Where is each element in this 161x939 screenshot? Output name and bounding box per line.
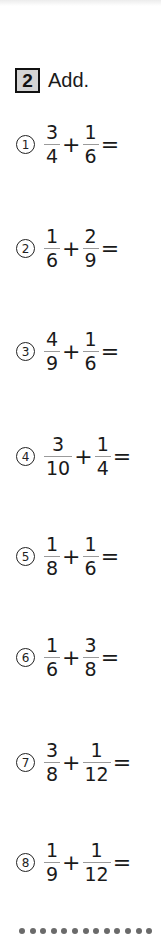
problem-7: 738+112= [16, 740, 133, 785]
numerator: 1 [83, 122, 99, 143]
scan-edge-shadow [0, 0, 161, 6]
denominator: 6 [44, 659, 60, 680]
equals-sign: = [101, 238, 119, 260]
denominator: 9 [44, 864, 60, 885]
denominator: 8 [83, 659, 99, 680]
denominator: 6 [44, 250, 60, 271]
equals-sign: = [113, 852, 131, 874]
denominator: 4 [95, 458, 111, 479]
divider-dot [83, 928, 89, 934]
first-fraction: 310 [44, 434, 72, 479]
second-fraction: 38 [83, 635, 99, 680]
divider-dot [51, 928, 57, 934]
dotted-divider [19, 928, 152, 934]
second-fraction: 112 [83, 740, 111, 785]
first-fraction: 49 [44, 329, 60, 374]
equals-sign: = [101, 134, 119, 156]
denominator: 8 [44, 558, 60, 579]
divider-dot [104, 928, 110, 934]
numerator: 1 [89, 740, 105, 761]
denominator: 6 [83, 558, 99, 579]
equals-sign: = [113, 446, 131, 468]
equals-sign: = [113, 752, 131, 774]
denominator: 9 [83, 250, 99, 271]
plus-sign: + [62, 752, 80, 774]
denominator: 8 [44, 764, 60, 785]
divider-dot [146, 928, 152, 934]
divider-dot [40, 928, 46, 934]
problem-6: 616+38= [16, 635, 121, 680]
second-fraction: 112 [83, 840, 111, 885]
plus-sign: + [62, 852, 80, 874]
numerator: 3 [50, 434, 66, 455]
problem-number-circle: 8 [16, 853, 35, 872]
divider-dot [19, 928, 25, 934]
numerator: 1 [95, 434, 111, 455]
numerator: 3 [44, 740, 60, 761]
section-header: 2 Add. [15, 68, 89, 93]
first-fraction: 19 [44, 840, 60, 885]
problem-number-circle: 5 [16, 547, 35, 566]
first-fraction: 16 [44, 226, 60, 271]
problem-number-circle: 4 [16, 447, 35, 466]
divider-dot [30, 928, 36, 934]
problem-number-circle: 7 [16, 753, 35, 772]
numerator: 1 [89, 840, 105, 861]
problem-number-circle: 3 [16, 342, 35, 361]
numerator: 1 [44, 226, 60, 247]
second-fraction: 29 [83, 226, 99, 271]
divider-dot [114, 928, 120, 934]
denominator: 4 [44, 146, 60, 167]
problem-2: 216+29= [16, 226, 121, 271]
first-fraction: 34 [44, 122, 60, 167]
divider-dot [136, 928, 142, 934]
second-fraction: 16 [83, 329, 99, 374]
plus-sign: + [62, 546, 80, 568]
first-fraction: 38 [44, 740, 60, 785]
numerator: 3 [44, 122, 60, 143]
problem-5: 518+16= [16, 534, 121, 579]
problem-1: 134+16= [16, 122, 121, 167]
equals-sign: = [101, 341, 119, 363]
plus-sign: + [62, 134, 80, 156]
divider-dot [72, 928, 78, 934]
equals-sign: = [101, 647, 119, 669]
problem-number-circle: 2 [16, 239, 35, 258]
numerator: 1 [83, 329, 99, 350]
numerator: 3 [83, 635, 99, 656]
problem-3: 349+16= [16, 329, 121, 374]
numerator: 1 [44, 534, 60, 555]
problem-4: 4310+14= [16, 434, 133, 479]
section-number-box: 2 [15, 68, 40, 93]
numerator: 1 [83, 534, 99, 555]
numerator: 2 [83, 226, 99, 247]
divider-dot [125, 928, 131, 934]
second-fraction: 14 [95, 434, 111, 479]
plus-sign: + [62, 647, 80, 669]
denominator: 9 [44, 353, 60, 374]
problem-number-circle: 1 [16, 135, 35, 154]
section-instruction: Add. [48, 69, 89, 92]
plus-sign: + [62, 341, 80, 363]
divider-dot [93, 928, 99, 934]
denominator: 10 [44, 458, 72, 479]
second-fraction: 16 [83, 122, 99, 167]
numerator: 1 [44, 840, 60, 861]
denominator: 12 [83, 864, 111, 885]
problem-8: 819+112= [16, 840, 133, 885]
denominator: 12 [83, 764, 111, 785]
plus-sign: + [62, 238, 80, 260]
second-fraction: 16 [83, 534, 99, 579]
first-fraction: 18 [44, 534, 60, 579]
divider-dot [61, 928, 67, 934]
equals-sign: = [101, 546, 119, 568]
first-fraction: 16 [44, 635, 60, 680]
plus-sign: + [74, 446, 92, 468]
numerator: 1 [44, 635, 60, 656]
denominator: 6 [83, 146, 99, 167]
problem-number-circle: 6 [16, 648, 35, 667]
numerator: 4 [44, 329, 60, 350]
section-number: 2 [22, 71, 33, 90]
denominator: 6 [83, 353, 99, 374]
